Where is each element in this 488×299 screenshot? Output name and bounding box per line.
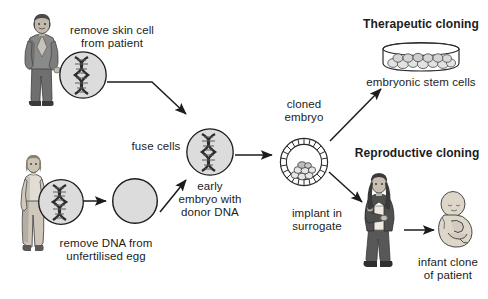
- cloned-embryo-blastocyst: [278, 136, 330, 188]
- enucleated-egg-cell: [111, 177, 159, 225]
- label-reproductive-cloning: Reproductive cloning: [349, 147, 485, 160]
- label-implant-in-surrogate: implant in surrogate: [283, 207, 351, 233]
- label-cloned-embryo: cloned embryo: [277, 98, 331, 124]
- label-remove-dna-unfertilised-egg: remove DNA from unfertilised egg: [50, 237, 162, 263]
- skin-cell-with-dna: [58, 50, 108, 100]
- arrow-skin-cell-to-fused-cell: [107, 82, 186, 114]
- fused-cell-with-donor-dna: [185, 127, 235, 177]
- label-infant-clone-of-patient: infant clone of patient: [409, 256, 487, 282]
- cloning-diagram: remove skin cell from patient fuse cells…: [0, 0, 488, 299]
- label-remove-skin-cell: remove skin cell from patient: [62, 24, 162, 50]
- unfertilised-egg-with-dna: [37, 178, 85, 226]
- petri-dish-stem-cells: [380, 41, 462, 75]
- label-fuse-cells: fuse cells: [130, 140, 182, 153]
- label-therapeutic-cloning: Therapeutic cloning: [353, 18, 488, 31]
- infant-clone-figure: [432, 191, 478, 253]
- arrow-embryo-to-petri-dish: [330, 89, 381, 141]
- label-early-embryo-donor-dna: early embryo with donor DNA: [172, 180, 248, 219]
- label-embryonic-stem-cells: embryonic stem cells: [357, 76, 485, 89]
- surrogate-mother-figure: [352, 173, 404, 273]
